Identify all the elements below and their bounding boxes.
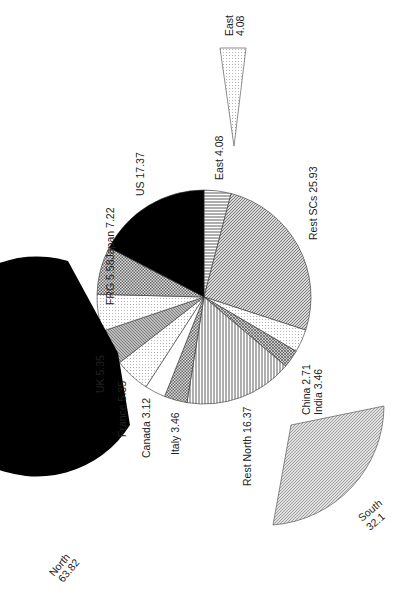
label-india: India 3.46 [312,369,324,415]
pie-chart: US 17.37 East 4.08 Rest SCs 25.93 FRG 5.… [0,0,401,596]
main-pie [97,190,311,404]
label-canada: Canada 3.12 [140,398,152,458]
label-china: China 2.71 [300,364,312,415]
label-east-main: East 4.08 [213,135,225,180]
label-rest-north: Rest North 16.37 [241,406,253,486]
label-east-value: 4.08 [234,15,246,36]
label-frg-japan: FRG 5.58Japan 7.22 [104,207,116,305]
label-uk: UK 5.35 [94,355,106,393]
label-france: France 5.35 [116,381,128,437]
east-wedge [220,48,246,146]
label-us: US 17.37 [134,152,146,196]
label-italy: Italy 3.46 [169,412,181,455]
label-rest-scs: Rest SCs 25.93 [307,166,319,240]
